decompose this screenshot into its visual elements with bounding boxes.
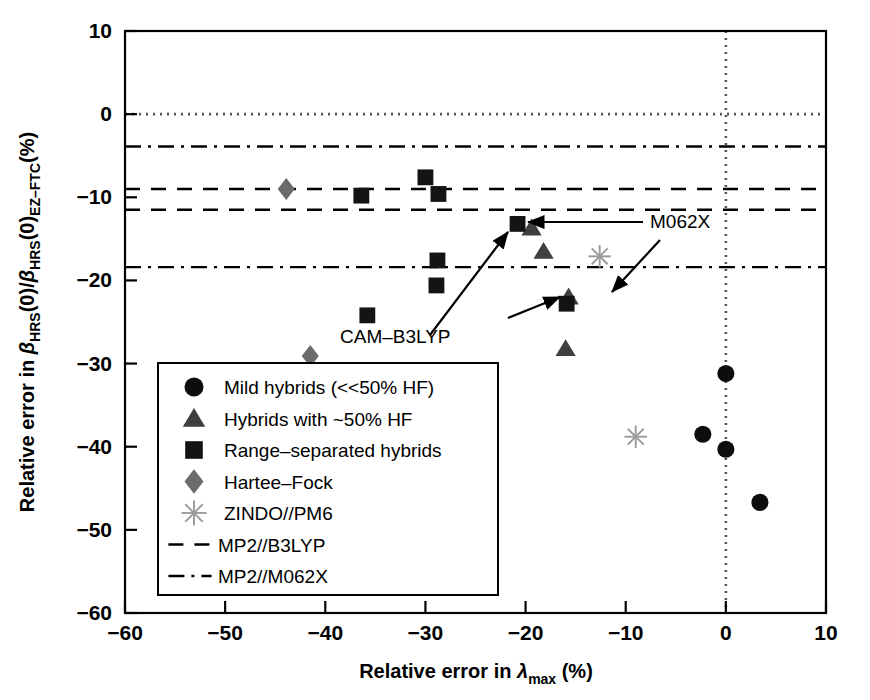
- legend-item-square[interactable]: Range–separated hybrids: [160, 435, 496, 465]
- data-point-circle: [751, 494, 768, 511]
- data-point-diamond: [278, 178, 295, 200]
- data-point-asterisk: [624, 425, 647, 448]
- annotation-label: M062X: [650, 211, 711, 232]
- data-point-square: [429, 277, 445, 293]
- x-axis-tick-labels: −60−50−40−30−20−10010: [107, 621, 837, 644]
- data-point-asterisk: [588, 245, 611, 268]
- data-point-square: [359, 307, 375, 323]
- data-point-square: [510, 216, 526, 232]
- data-point-square: [559, 296, 575, 312]
- y-tick-label: −60: [76, 601, 112, 624]
- legend-item-triangle[interactable]: Hybrids with ~50% HF: [160, 404, 496, 434]
- y-axis-tick-labels: 100−10−20−30−40−50−60: [76, 19, 112, 624]
- annotation-arrow: [508, 297, 560, 318]
- x-axis-title: Relative error in λmax (%): [359, 660, 593, 687]
- legend-item-circle[interactable]: Mild hybrids (<<50% HF): [160, 372, 496, 402]
- legend-label: Hartee–Fock: [224, 472, 333, 493]
- x-tick-label: 0: [720, 621, 732, 644]
- chart-figure: −60−50−40−30−20−10010 100−10−20−30−40−50…: [0, 0, 870, 700]
- legend-label: ZINDO//PM6: [224, 503, 333, 524]
- data-point-circle: [717, 365, 734, 382]
- legend[interactable]: Mild hybrids (<<50% HF)Hybrids with ~50%…: [158, 363, 498, 595]
- x-tick-label: −50: [207, 621, 243, 644]
- series-diamond: [278, 178, 319, 367]
- scatter-plot-canvas: −60−50−40−30−20−10010 100−10−20−30−40−50…: [0, 0, 870, 700]
- y-tick-label: −50: [76, 518, 112, 541]
- legend-item-hitbox[interactable]: [160, 530, 496, 560]
- y-tick-label: 10: [89, 19, 112, 42]
- data-point-triangle: [556, 339, 576, 356]
- annotation-arrow: [612, 240, 660, 292]
- y-tick-label: 0: [100, 102, 112, 125]
- data-point-square: [431, 186, 447, 202]
- x-tick-label: −60: [107, 621, 143, 644]
- y-tick-label: −40: [76, 435, 112, 458]
- y-axis-ticks-group: [125, 31, 137, 613]
- legend-label: Hybrids with ~50% HF: [224, 409, 412, 430]
- y-axis-title: Relative error in βHRS(0)/βHRS(0)EZ–FTC(…: [16, 132, 43, 512]
- legend-item-dashed[interactable]: MP2//B3LYP: [160, 530, 496, 560]
- legend-label: MP2//B3LYP: [218, 535, 325, 556]
- y-tick-label: −10: [76, 185, 112, 208]
- data-point-triangle: [534, 242, 554, 259]
- x-tick-label: −20: [508, 621, 544, 644]
- legend-item-diamond[interactable]: Hartee–Fock: [160, 467, 496, 497]
- data-point-circle: [694, 426, 711, 443]
- legend-marker-asterisk: [182, 501, 207, 526]
- x-tick-label: −30: [408, 621, 444, 644]
- data-point-square: [418, 169, 434, 185]
- legend-label: Mild hybrids (<<50% HF): [224, 377, 434, 398]
- legend-marker-square: [185, 441, 203, 459]
- x-tick-label: −40: [307, 621, 343, 644]
- legend-item-dashdot[interactable]: MP2//M062X: [160, 561, 496, 591]
- legend-marker-circle: [185, 378, 204, 397]
- data-point-circle: [717, 441, 734, 458]
- data-point-square: [353, 188, 369, 204]
- y-tick-label: −20: [76, 268, 112, 291]
- legend-label: MP2//M062X: [218, 566, 328, 587]
- legend-item-asterisk[interactable]: ZINDO//PM6: [160, 498, 496, 528]
- data-point-square: [430, 253, 446, 269]
- series-asterisk: [588, 245, 647, 448]
- legend-label: Range–separated hybrids: [224, 440, 442, 461]
- series-triangle: [522, 219, 579, 356]
- x-tick-label: −10: [608, 621, 644, 644]
- x-axis-ticks-group: [125, 601, 826, 613]
- series-circle: [694, 365, 768, 511]
- y-tick-label: −30: [76, 352, 112, 375]
- x-tick-label: 10: [814, 621, 837, 644]
